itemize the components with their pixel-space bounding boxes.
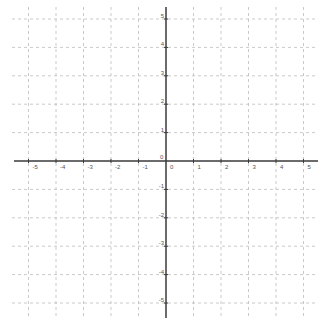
axes	[14, 7, 318, 318]
y-tick-label: -5	[159, 297, 165, 303]
tick-labels: -5-4-3-2-1012345054321-1-2-3-4-5	[33, 13, 312, 303]
x-tick-label: -4	[60, 164, 66, 170]
x-tick-label: 1	[198, 164, 202, 170]
x-tick-label: 3	[253, 164, 257, 170]
y-tick-label: -3	[159, 240, 165, 246]
x-tick-label: 4	[280, 164, 284, 170]
y-tick-label: -2	[159, 212, 165, 218]
coordinate-plane: -5-4-3-2-1012345054321-1-2-3-4-5	[0, 0, 328, 327]
grid-lines	[12, 7, 318, 318]
x-tick-label: 5	[308, 164, 312, 170]
y-tick-label: -4	[159, 269, 165, 275]
x-tick-label: -1	[143, 164, 149, 170]
y-tick-label: 1	[161, 127, 165, 133]
x-tick-label: 2	[225, 164, 229, 170]
y-tick-label: -1	[159, 183, 165, 189]
y-tick-label: 5	[161, 13, 165, 19]
y-tick-label: 4	[161, 41, 165, 47]
x-tick-label: 0	[170, 164, 174, 170]
x-tick-label: -5	[33, 164, 39, 170]
x-tick-label: -2	[115, 164, 121, 170]
origin-label: 0	[160, 154, 164, 160]
y-tick-label: 2	[161, 98, 165, 104]
x-tick-label: -3	[88, 164, 94, 170]
y-tick-label: 3	[161, 70, 165, 76]
